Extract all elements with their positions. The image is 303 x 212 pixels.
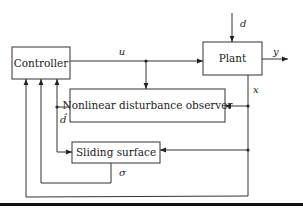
controller-block: Controller <box>12 47 70 79</box>
sigma-label: σ <box>119 167 127 178</box>
bottom-rule <box>0 203 303 206</box>
y-label: y <box>272 46 279 57</box>
x-label: x <box>253 84 259 95</box>
sliding-surface-label: Sliding surface <box>76 146 156 158</box>
observer-block: Nonlinear disturbance observer <box>62 89 233 122</box>
u-label: u <box>119 46 125 57</box>
sliding-surface-block: Sliding surface <box>72 142 160 163</box>
d-label: d <box>240 18 246 29</box>
d-hat-label: d̂ <box>60 113 68 125</box>
y-signal: y <box>262 46 288 59</box>
u-signal: u <box>70 46 203 89</box>
d-signal: d <box>232 13 246 42</box>
observer-label: Nonlinear disturbance observer <box>62 99 233 111</box>
controller-label: Controller <box>14 57 70 69</box>
plant-block: Plant <box>203 42 262 75</box>
plant-label: Plant <box>219 52 247 64</box>
block-diagram: Controller Plant Nonlinear disturbance o… <box>0 0 303 212</box>
